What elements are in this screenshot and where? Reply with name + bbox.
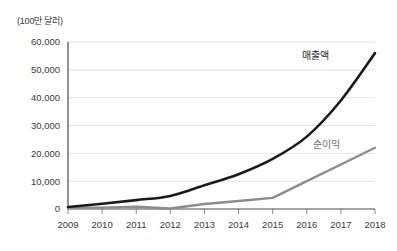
y-tick-label: 20,000 xyxy=(31,148,60,159)
x-tick-label: 2010 xyxy=(92,219,113,230)
x-axis-tick-marks xyxy=(68,209,375,214)
gridlines xyxy=(68,42,375,181)
y-tick-label: 30,000 xyxy=(31,120,60,131)
x-tick-label: 2014 xyxy=(228,219,249,230)
y-tick-label: 10,000 xyxy=(31,176,60,187)
y-tick-label: 50,000 xyxy=(31,64,60,75)
x-tick-label: 2009 xyxy=(57,219,78,230)
x-tick-label: 2015 xyxy=(262,219,283,230)
x-tick-label: 2018 xyxy=(364,219,385,230)
series-label-revenue: 매출액 xyxy=(302,50,329,61)
series-line-net-profit xyxy=(68,148,375,209)
line-chart-figure: (100만 달러) 010,00020,00030,00040,00050,00… xyxy=(0,0,397,251)
chart-plot-area: 010,00020,00030,00040,00050,00060,000 20… xyxy=(0,0,397,251)
x-tick-label: 2012 xyxy=(160,219,181,230)
x-tick-label: 2016 xyxy=(296,219,317,230)
y-tick-label: 60,000 xyxy=(31,36,60,47)
y-tick-label: 40,000 xyxy=(31,92,60,103)
x-tick-label: 2017 xyxy=(330,219,351,230)
series-line-revenue xyxy=(68,53,375,207)
x-axis-tick-labels: 2009201020112012201320142015201620172018 xyxy=(57,219,385,230)
x-tick-label: 2013 xyxy=(194,219,215,230)
series-label-net-profit: 순이익 xyxy=(313,139,340,150)
y-tick-label: 0 xyxy=(55,203,60,214)
y-axis-tick-labels: 010,00020,00030,00040,00050,00060,000 xyxy=(31,36,60,214)
x-tick-label: 2011 xyxy=(126,219,146,230)
